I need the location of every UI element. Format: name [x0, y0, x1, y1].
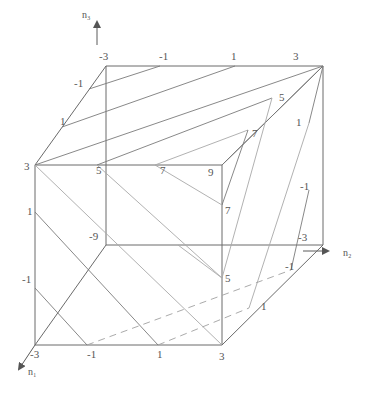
- svg-text:9: 9: [208, 166, 214, 178]
- svg-text:-1: -1: [22, 273, 31, 285]
- svg-text:3: 3: [219, 350, 225, 362]
- svg-text:7: 7: [225, 204, 231, 216]
- svg-text:7: 7: [160, 164, 166, 176]
- front-face-lines: [35, 165, 222, 345]
- svg-text:-3: -3: [298, 231, 308, 243]
- svg-text:1: 1: [296, 116, 302, 128]
- svg-text:-1: -1: [300, 180, 309, 192]
- svg-text:1: 1: [60, 115, 66, 127]
- svg-text:5: 5: [279, 91, 285, 103]
- svg-text:-1: -1: [74, 77, 83, 89]
- n2-label: n₂: [343, 247, 352, 258]
- svg-text:3: 3: [24, 160, 30, 172]
- svg-text:1: 1: [157, 348, 163, 360]
- svg-text:-3: -3: [30, 348, 40, 360]
- svg-text:-1: -1: [159, 50, 168, 62]
- svg-text:3: 3: [293, 50, 299, 62]
- vertex-labels: -3 -1 1 3 -1 1 3 5 7 9 5 7 1 -1 -3 7 5 1…: [22, 50, 309, 362]
- svg-text:1: 1: [261, 300, 267, 312]
- svg-text:-9: -9: [89, 230, 99, 242]
- axes: n₃ n₂ n₁: [19, 9, 352, 377]
- n1-label: n₁: [28, 366, 37, 377]
- svg-text:5: 5: [225, 272, 231, 284]
- n3-label: n₃: [82, 9, 91, 20]
- svg-text:-3: -3: [99, 50, 109, 62]
- svg-text:1: 1: [231, 50, 237, 62]
- svg-text:-1: -1: [285, 260, 294, 272]
- cube-diagram: n₃ n₂ n₁: [0, 0, 369, 395]
- svg-text:1: 1: [27, 205, 33, 217]
- svg-text:-1: -1: [87, 348, 96, 360]
- svg-text:7: 7: [252, 127, 258, 139]
- svg-text:5: 5: [96, 164, 102, 176]
